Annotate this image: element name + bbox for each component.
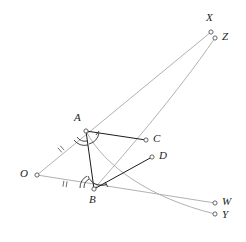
point-label-A: A	[74, 112, 81, 123]
geometry-canvas	[0, 0, 246, 242]
point-label-X: X	[206, 12, 213, 23]
point-dot-O	[35, 173, 39, 177]
point-dot-X	[209, 30, 213, 34]
point-dot-B	[92, 187, 96, 191]
segment-A-to-C	[86, 131, 146, 140]
light-lines-group	[37, 32, 215, 214]
point-dot-Z	[213, 36, 217, 40]
point-label-Z: Z	[222, 31, 228, 42]
point-dot-C	[144, 138, 148, 142]
points-group	[35, 30, 217, 216]
point-dot-D	[150, 155, 154, 159]
tick-mark-OB	[63, 181, 67, 187]
ray-O-through-B-to-W	[37, 175, 215, 203]
point-label-C: C	[153, 133, 160, 144]
curve-A-to-Y	[86, 131, 215, 214]
point-label-D: D	[159, 150, 167, 161]
geometry-figure: O A B C D X Z W Y	[0, 0, 246, 242]
point-label-B: B	[89, 194, 96, 205]
ray-O-through-A-to-X	[37, 32, 211, 175]
point-label-O: O	[20, 168, 28, 179]
point-label-Y: Y	[222, 209, 228, 220]
point-dot-Y	[213, 212, 217, 216]
point-dot-W	[213, 201, 217, 205]
tick-mark-OA	[58, 146, 64, 153]
point-label-W: W	[222, 196, 231, 207]
segment-B-to-D	[94, 157, 152, 189]
point-dot-A	[84, 129, 88, 133]
